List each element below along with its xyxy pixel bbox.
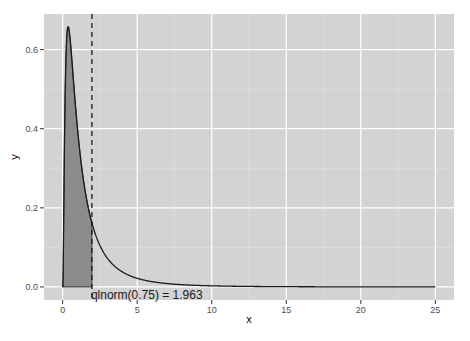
density-chart: qlnorm(0.75) = 1.963 0510152025 0.00.20.…: [0, 0, 470, 341]
x-tick-label: 0: [60, 305, 65, 315]
y-tick-label: 0.0: [25, 282, 38, 292]
y-tick-label: 0.4: [25, 124, 38, 134]
x-tick-label: 20: [356, 305, 366, 315]
x-tick-label: 10: [207, 305, 217, 315]
y-axis-title: y: [8, 154, 20, 160]
x-tick-label: 25: [430, 305, 440, 315]
x-tick-label: 15: [281, 305, 291, 315]
x-axis-title: x: [246, 313, 252, 325]
y-tick-label: 0.6: [25, 45, 38, 55]
quantile-annotation: qlnorm(0.75) = 1.963: [91, 288, 203, 302]
x-tick-label: 5: [135, 305, 140, 315]
y-tick-label: 0.2: [25, 203, 38, 213]
y-axis: 0.00.20.40.6: [25, 45, 44, 292]
